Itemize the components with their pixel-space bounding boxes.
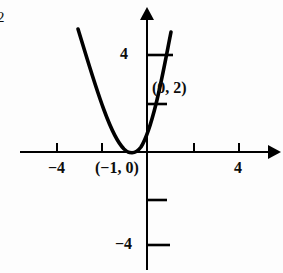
vertex-point-label: (−1, 0) bbox=[95, 160, 139, 176]
y-intercept-point-label: (0, 2) bbox=[152, 80, 187, 96]
coordinate-plane-graph bbox=[0, 0, 283, 273]
x-axis-tick-label-4: 4 bbox=[234, 160, 242, 176]
x-axis-arrowhead bbox=[268, 145, 281, 159]
x-axis-tick-label-neg-4: −4 bbox=[48, 160, 65, 176]
y-axis-tick-label-neg-4: −4 bbox=[115, 236, 132, 252]
figure-canvas: 2 4 −4 −4 4 (−1, 0) (0, 2) bbox=[0, 0, 283, 273]
y-axis-tick-label-4: 4 bbox=[120, 46, 128, 62]
figure-number: 2 bbox=[0, 10, 5, 25]
y-axis-arrowhead bbox=[140, 7, 154, 20]
